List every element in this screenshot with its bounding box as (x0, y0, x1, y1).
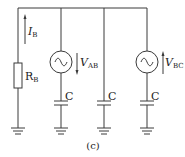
sine-wave-icon (141, 58, 153, 66)
sine-wave-icon (55, 58, 67, 66)
capacitor-label: C (108, 90, 116, 103)
source-bc-label: VBC (165, 56, 184, 70)
capacitor-label: C (151, 90, 159, 103)
figure-caption: (c) (86, 140, 100, 151)
voltage-arrow-down-icon (76, 53, 79, 75)
source-bc-branch: VBC C (136, 8, 184, 134)
current-arrow-icon (24, 14, 27, 44)
ground-icon (54, 128, 68, 134)
current-label: IB (27, 25, 38, 39)
resistor-label: RB (25, 70, 38, 84)
ground-icon (11, 128, 25, 134)
source-ab-label: VAB (80, 56, 98, 70)
circuit-diagram: IB RB VAB C (0, 0, 185, 157)
resistor-branch: IB RB (11, 8, 38, 134)
capacitor-branch: C (97, 8, 116, 134)
capacitor-label: C (65, 90, 73, 103)
ground-icon (140, 128, 154, 134)
source-ab-branch: VAB C (50, 8, 98, 134)
resistor-symbol (14, 63, 22, 88)
ground-icon (97, 128, 111, 134)
